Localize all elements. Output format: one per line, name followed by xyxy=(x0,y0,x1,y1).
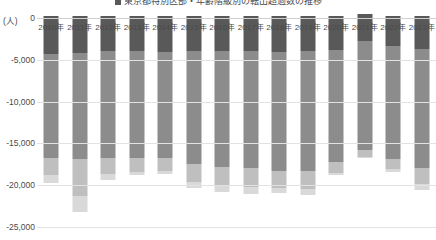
bar-segment xyxy=(158,171,173,174)
x-axis-tick-label: 2013年 xyxy=(124,21,150,32)
bar-segment xyxy=(300,171,315,189)
x-axis-tick-label: 2018年 xyxy=(266,21,292,32)
bar-segment xyxy=(101,158,116,174)
bar-stack-negative xyxy=(44,18,59,183)
bar-segment xyxy=(357,150,372,157)
gridline xyxy=(37,60,436,61)
bar-segment xyxy=(186,164,201,182)
bar-segment xyxy=(243,187,258,194)
bar-chart: 東京都特別区部・年齢階級別の転出超過数の推移 (人) 2010年2011年201… xyxy=(0,0,436,240)
x-axis-tick-label: 2017年 xyxy=(238,21,264,32)
x-axis-tick-label: 2023年 xyxy=(409,21,435,32)
y-axis-tick-label: -15,000 xyxy=(1,139,35,147)
bar-stack-negative xyxy=(272,18,287,193)
bar-stack-negative xyxy=(243,18,258,194)
bar-segment xyxy=(72,159,87,196)
gridline xyxy=(37,143,436,144)
bar-segment xyxy=(272,188,287,193)
bar-segment xyxy=(300,189,315,195)
bar-group: 2018年 xyxy=(265,0,294,240)
bar-segment xyxy=(44,158,59,176)
bar-group: 2019年 xyxy=(294,0,323,240)
y-axis-tick-label: -10,000 xyxy=(1,98,35,106)
gridline xyxy=(37,185,436,186)
bar-segment xyxy=(329,173,344,176)
bars-container: 2010年2011年2012年2013年2014年2015年2016年2017年… xyxy=(37,0,436,240)
gridline xyxy=(37,227,436,228)
y-axis-tick-label: -5,000 xyxy=(1,56,35,64)
bar-segment xyxy=(129,158,144,171)
bar-segment xyxy=(101,174,116,180)
x-axis-tick-label: 2014年 xyxy=(152,21,178,32)
bar-stack-negative xyxy=(329,18,344,175)
bar-segment xyxy=(243,51,258,168)
bar-segment xyxy=(186,51,201,164)
x-axis-tick-label: 2010年 xyxy=(38,21,64,32)
bar-group: 2013年 xyxy=(123,0,152,240)
x-axis-tick-label: 2020年 xyxy=(323,21,349,32)
bar-segment xyxy=(386,169,401,172)
bar-group: 2015年 xyxy=(180,0,209,240)
bar-stack-negative xyxy=(186,18,201,188)
bar-segment xyxy=(386,159,401,169)
bar-group: 2021年 xyxy=(351,0,380,240)
bar-group: 2022年 xyxy=(379,0,408,240)
bar-segment xyxy=(215,185,230,192)
x-axis-tick-label: 2019年 xyxy=(295,21,321,32)
bar-stack-negative xyxy=(357,18,372,158)
bar-segment xyxy=(272,52,287,171)
bar-segment xyxy=(44,175,59,183)
x-axis-tick-label: 2022年 xyxy=(380,21,406,32)
bar-segment xyxy=(243,168,258,186)
bar-stack-negative xyxy=(215,18,230,192)
bar-segment xyxy=(414,168,429,185)
bar-group: 2014年 xyxy=(151,0,180,240)
bar-group: 2017年 xyxy=(237,0,266,240)
x-axis-tick-label: 2011年 xyxy=(67,21,92,32)
bar-group: 2016年 xyxy=(208,0,237,240)
bar-segment xyxy=(101,51,116,158)
bar-segment xyxy=(300,51,315,171)
bar-segment xyxy=(44,54,59,158)
x-axis-tick-label: 2015年 xyxy=(181,21,207,32)
bar-segment xyxy=(72,196,87,212)
bar-segment xyxy=(357,41,372,150)
bar-segment xyxy=(215,167,230,185)
bar-stack-negative xyxy=(101,18,116,180)
bar-segment xyxy=(357,157,372,159)
bar-segment xyxy=(329,162,344,173)
bar-segment xyxy=(329,50,344,162)
bar-group: 2010年 xyxy=(37,0,66,240)
x-axis-tick-label: 2016年 xyxy=(209,21,235,32)
y-axis-tick-label: 0 xyxy=(1,14,35,22)
plot-area: 2010年2011年2012年2013年2014年2015年2016年2017年… xyxy=(37,0,436,240)
bar-stack-negative xyxy=(300,18,315,195)
bar-stack-negative xyxy=(158,18,173,174)
bar-stack-negative xyxy=(414,18,429,190)
x-axis-tick-label: 2021年 xyxy=(352,21,378,32)
y-axis-tick-label: -25,000 xyxy=(1,223,35,231)
y-axis-tick-label: -20,000 xyxy=(1,181,35,189)
bar-stack-negative xyxy=(72,18,87,212)
bar-segment xyxy=(414,49,429,168)
bar-stack-negative xyxy=(386,18,401,172)
gridline xyxy=(37,18,436,19)
x-axis-tick-label: 2012年 xyxy=(95,21,121,32)
gridline xyxy=(37,102,436,103)
bar-group: 2012年 xyxy=(94,0,123,240)
bar-segment xyxy=(129,172,144,175)
bar-stack-negative xyxy=(129,18,144,175)
bar-segment xyxy=(129,51,144,159)
bar-segment xyxy=(158,158,173,171)
bar-group: 2011年 xyxy=(66,0,95,240)
bar-group: 2020年 xyxy=(322,0,351,240)
bar-group: 2023年 xyxy=(408,0,436,240)
bar-segment xyxy=(215,51,230,166)
